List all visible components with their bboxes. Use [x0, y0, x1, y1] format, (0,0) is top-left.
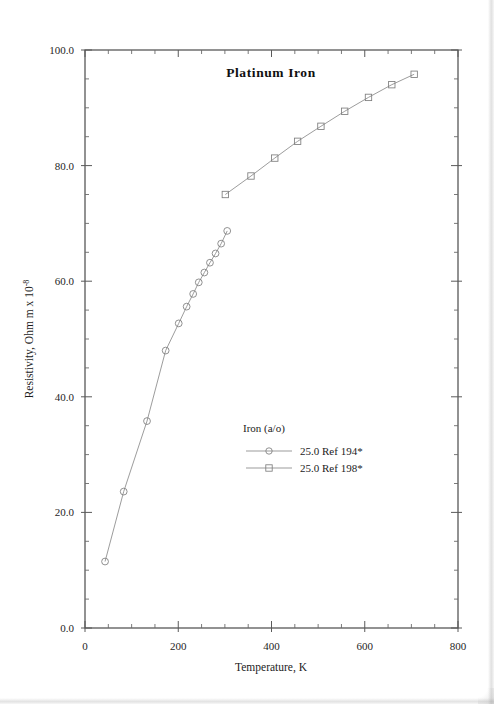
resistivity-vs-temperature-chart: 0200400600800 0.020.040.060.080.0100.0 P… — [0, 0, 494, 704]
plot-frame — [85, 50, 458, 628]
data-series-group — [102, 71, 418, 565]
x-axis-title: Temperature, K — [235, 661, 308, 674]
series-line-circle — [105, 231, 227, 562]
y-axis-title-exponent: -8 — [22, 280, 31, 287]
series-2 — [222, 71, 417, 198]
y-axis-ticks — [81, 50, 462, 628]
plot-area-border — [85, 50, 458, 628]
x-tick-label: 600 — [357, 640, 374, 652]
legend-label-circle: 25.0 Ref 194* — [300, 445, 363, 457]
x-tick-label: 200 — [170, 640, 187, 652]
y-tick-label: 0.0 — [60, 622, 74, 634]
x-axis-tick-labels: 0200400600800 — [82, 640, 467, 652]
figure-container: 0200400600800 0.020.040.060.080.0100.0 P… — [0, 0, 494, 704]
series-line-square — [225, 74, 414, 194]
data-point-circle — [224, 228, 231, 235]
x-tick-label: 400 — [263, 640, 280, 652]
y-axis-tick-labels: 0.020.040.060.080.0100.0 — [49, 44, 74, 634]
legend-entry-circle[interactable]: 25.0 Ref 194* — [246, 445, 363, 457]
y-axis-title-main: Resistivity, Ohm m x 10 — [23, 286, 36, 398]
y-tick-label: 80.0 — [55, 160, 75, 172]
y-axis-title: Resistivity, Ohm m x 10-8 — [22, 280, 36, 399]
y-axis-title-group: Resistivity, Ohm m x 10-8 — [22, 280, 36, 399]
y-tick-label: 20.0 — [55, 506, 75, 518]
legend: Iron (a/o) 25.0 Ref 194* 25.0 Ref 198* — [243, 422, 363, 474]
y-tick-label: 40.0 — [55, 391, 75, 403]
x-axis-ticks — [85, 50, 458, 632]
y-tick-label: 100.0 — [49, 44, 74, 56]
legend-entry-square[interactable]: 25.0 Ref 198* — [246, 462, 363, 474]
legend-label-square: 25.0 Ref 198* — [300, 462, 363, 474]
series-1 — [102, 228, 231, 565]
page-canvas: 0200400600800 0.020.040.060.080.0100.0 P… — [0, 0, 494, 704]
x-tick-label: 800 — [450, 640, 467, 652]
legend-header: Iron (a/o) — [243, 422, 285, 435]
x-tick-label: 0 — [82, 640, 88, 652]
y-tick-label: 60.0 — [55, 275, 75, 287]
chart-title: Platinum Iron — [226, 65, 316, 80]
